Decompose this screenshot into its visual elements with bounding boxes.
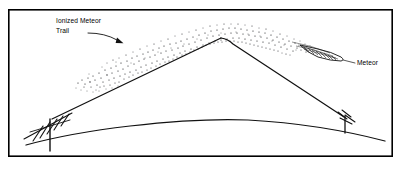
trail-arrow-shaft: [88, 33, 117, 40]
signal-path-uplink: [52, 38, 221, 119]
signal-path: [52, 38, 344, 119]
ionized-trail-label-line1: Ionized Meteor: [56, 17, 102, 24]
ionized-trail-label-line2: Trail: [56, 27, 70, 34]
ionized-meteor-trail: [76, 24, 316, 93]
meteor-body: [292, 42, 343, 61]
right-antenna: [338, 110, 355, 133]
left-antenna: [24, 113, 72, 151]
meteor-scatter-diagram: Ionized Meteor Trail Meteor: [0, 0, 402, 169]
right-antenna-elements: [338, 110, 355, 124]
trail-dot-cluster: [76, 24, 316, 93]
diagram-canvas: Ionized Meteor Trail Meteor: [0, 0, 402, 169]
ionized-trail-pointer-arrow: [88, 33, 124, 43]
earth-curve: [26, 120, 385, 145]
trail-arrow-head: [116, 37, 124, 43]
meteor-label: Meteor: [357, 59, 379, 66]
signal-path-downlink: [221, 38, 344, 117]
meteor-leader-line: [343, 60, 355, 63]
